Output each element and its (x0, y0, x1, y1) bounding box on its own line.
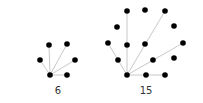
node (142, 41, 148, 47)
node (171, 55, 177, 61)
hub-node (124, 72, 130, 78)
nodes (37, 41, 78, 78)
diagram-label: 15 (140, 85, 153, 96)
node (37, 57, 43, 63)
node (64, 72, 70, 78)
node (124, 8, 130, 14)
node (162, 72, 168, 78)
node (105, 40, 111, 46)
diagram-label: 6 (55, 85, 61, 96)
node (171, 23, 177, 29)
node (72, 57, 78, 63)
node (150, 57, 156, 63)
node (143, 72, 149, 78)
tree-diagram-15: 15 (105, 7, 186, 96)
node (115, 57, 121, 63)
node (64, 41, 70, 47)
node (46, 42, 52, 48)
diagram-canvas: 6 15 (0, 0, 203, 103)
tree-diagram-6: 6 (37, 41, 78, 96)
nodes (105, 7, 186, 78)
edge-line (108, 43, 118, 60)
edge-line (49, 45, 50, 75)
node (162, 8, 168, 14)
node (124, 42, 130, 48)
edges (40, 44, 75, 75)
node (114, 24, 120, 30)
node (142, 7, 148, 13)
hub-node (47, 72, 53, 78)
node (180, 40, 186, 46)
